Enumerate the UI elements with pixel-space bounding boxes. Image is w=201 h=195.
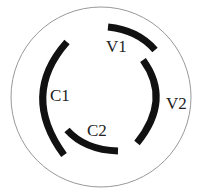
label-v1: V1 xyxy=(106,37,127,56)
label-c2: C2 xyxy=(87,121,107,140)
outer-circle xyxy=(11,7,191,187)
arc-v2 xyxy=(137,60,156,143)
circle-diagram: V1 V2 C1 C2 xyxy=(0,0,201,195)
label-c1: C1 xyxy=(50,86,70,105)
label-v2: V2 xyxy=(166,94,187,113)
